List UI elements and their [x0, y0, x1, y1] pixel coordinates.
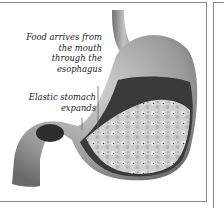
label-line: through the — [24, 53, 102, 64]
label-food-arrives: Food arrives from the mouth through the … — [24, 32, 102, 74]
label-line: the mouth — [24, 43, 102, 54]
label-line: Elastic stomach — [18, 92, 96, 103]
duodenum-opening — [36, 124, 64, 142]
label-elastic-stomach: Elastic stomach expands — [18, 92, 96, 113]
label-line: expands — [18, 103, 96, 114]
label-line: esophagus — [24, 64, 102, 75]
label-line: Food arrives from — [24, 32, 102, 43]
